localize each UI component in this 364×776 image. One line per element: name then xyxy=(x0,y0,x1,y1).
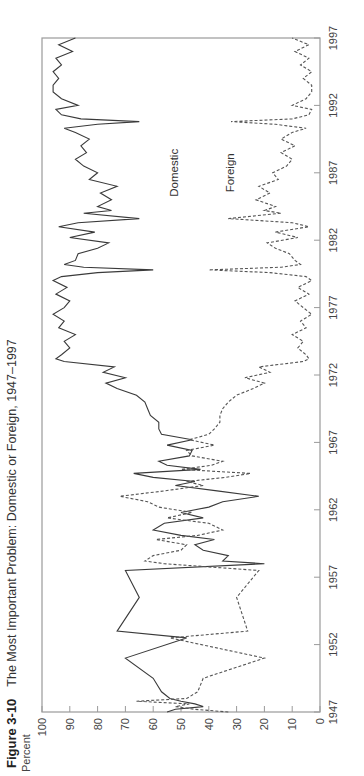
series-line-foreign xyxy=(120,38,312,712)
y-tick-label: 30 xyxy=(231,718,243,730)
x-tick-label: 1962 xyxy=(327,498,339,522)
rotated-figure: Figure 3-10The Most Important Problem: D… xyxy=(0,0,364,776)
y-tick-label: 80 xyxy=(92,718,104,730)
y-tick-label: 0 xyxy=(314,718,326,724)
line-chart: 0102030405060708090100194719521957196219… xyxy=(0,0,364,776)
y-tick-label: 60 xyxy=(147,718,159,730)
y-tick-label: 10 xyxy=(286,718,298,730)
plot-frame xyxy=(42,38,320,712)
y-tick-label: 40 xyxy=(203,718,215,730)
x-tick-label: 1947 xyxy=(327,700,339,724)
y-tick-label: 90 xyxy=(64,718,76,730)
series-label-domestic: Domestic xyxy=(168,149,180,197)
x-tick-label: 1972 xyxy=(327,363,339,387)
x-tick-label: 1992 xyxy=(327,93,339,117)
x-tick-label: 1967 xyxy=(327,430,339,454)
y-tick-label: 70 xyxy=(119,718,131,730)
x-tick-label: 1987 xyxy=(327,161,339,185)
x-tick-label: 1952 xyxy=(327,632,339,656)
y-tick-label: 50 xyxy=(175,718,187,730)
x-tick-label: 1957 xyxy=(327,565,339,589)
series-line-domestic xyxy=(53,38,264,712)
x-tick-label: 1977 xyxy=(327,295,339,319)
y-tick-label: 20 xyxy=(258,718,270,730)
series-label-foreign: Foreign xyxy=(224,153,236,192)
x-tick-label: 1982 xyxy=(327,228,339,252)
y-tick-label: 100 xyxy=(36,718,48,736)
x-tick-label: 1997 xyxy=(327,26,339,50)
